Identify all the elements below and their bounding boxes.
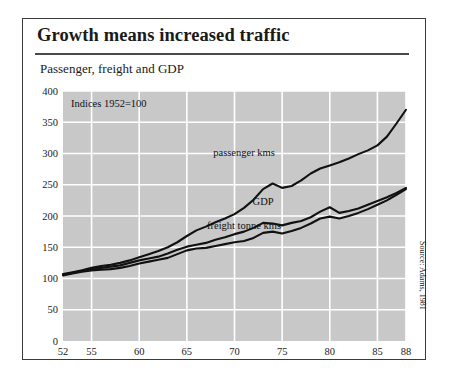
y-tick-label: 350 — [42, 117, 58, 128]
y-tick-label: 150 — [42, 242, 58, 253]
y-tick-label: 50 — [48, 304, 59, 315]
series-label-gdp: GDP — [253, 196, 274, 207]
series-label-passenger-kms: passenger kms — [213, 147, 275, 158]
x-tick-label: 80 — [325, 346, 336, 357]
indices-annotation: Indices 1952=100 — [71, 98, 147, 109]
series-label-freight-tonne-kms: freight tonne kms — [207, 220, 281, 231]
y-axis-tick-labels: 050100150200250300350400 — [42, 86, 58, 347]
line-chart: 050100150200250300350400 525560657075808… — [23, 19, 427, 361]
x-tick-label: 70 — [229, 346, 240, 357]
annotation-layer: Indices 1952=100 — [71, 98, 147, 109]
x-axis-tick-labels: 525560657075808588 — [58, 346, 412, 357]
chart-plot-area: 050100150200250300350400 525560657075808… — [23, 19, 427, 361]
y-tick-label: 250 — [42, 179, 58, 190]
y-tick-label: 400 — [42, 86, 58, 97]
x-tick-label: 85 — [372, 346, 383, 357]
x-tick-label: 88 — [401, 346, 412, 357]
x-tick-label: 60 — [134, 346, 145, 357]
y-tick-label: 0 — [53, 336, 58, 347]
x-tick-label: 55 — [86, 346, 97, 357]
x-tick-label: 75 — [277, 346, 288, 357]
x-tick-label: 65 — [182, 346, 193, 357]
figure-frame: Growth means increased traffic Passenger… — [22, 18, 426, 360]
y-tick-label: 100 — [42, 273, 58, 284]
y-tick-label: 300 — [42, 148, 58, 159]
source-note: Source: Adams, 1981 — [413, 241, 427, 351]
y-tick-label: 200 — [42, 211, 58, 222]
x-tick-label: 52 — [58, 346, 69, 357]
